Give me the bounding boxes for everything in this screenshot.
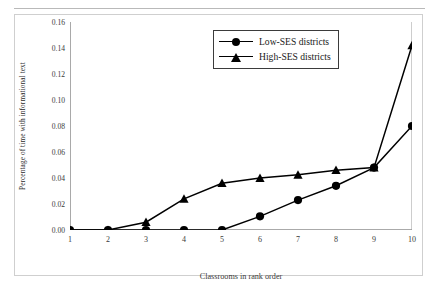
legend-label: Low-SES districts xyxy=(259,36,329,47)
x-tick-label: 5 xyxy=(220,235,224,244)
y-axis-label: Percentage of time with informational te… xyxy=(18,62,27,190)
x-tick-label: 2 xyxy=(106,235,110,244)
x-tick-label: 9 xyxy=(372,235,376,244)
y-tick-label: 0.12 xyxy=(52,70,65,79)
y-tick-label: 0.10 xyxy=(52,96,65,105)
figure: Percentage of time with informational te… xyxy=(0,0,439,291)
x-axis-label: Classrooms in rank order xyxy=(200,272,283,281)
x-tick-label: 1 xyxy=(68,235,72,244)
x-tick-label: 6 xyxy=(258,235,262,244)
y-tick-label: 0.00 xyxy=(52,226,65,235)
y-tick-label: 0.06 xyxy=(52,148,65,157)
triangle-marker-icon xyxy=(219,51,253,63)
legend-item-high-ses: High-SES districts xyxy=(219,49,331,64)
y-tick-label: 0.02 xyxy=(52,200,65,209)
x-tick-label: 10 xyxy=(408,235,416,244)
y-tick-label: 0.04 xyxy=(52,174,65,183)
y-tick-label: 0.16 xyxy=(52,18,65,27)
chart-legend: Low-SES districts High-SES districts xyxy=(213,30,339,69)
x-tick-label: 3 xyxy=(144,235,148,244)
y-tick-label: 0.14 xyxy=(52,44,65,53)
top-rule-divider xyxy=(14,8,425,9)
x-tick-label: 8 xyxy=(334,235,338,244)
x-tick-label: 4 xyxy=(182,235,186,244)
legend-label: High-SES districts xyxy=(259,51,331,62)
x-tick-label: 7 xyxy=(296,235,300,244)
legend-item-low-ses: Low-SES districts xyxy=(219,34,331,49)
circle-marker-icon xyxy=(219,36,253,48)
y-tick-label: 0.08 xyxy=(52,122,65,131)
